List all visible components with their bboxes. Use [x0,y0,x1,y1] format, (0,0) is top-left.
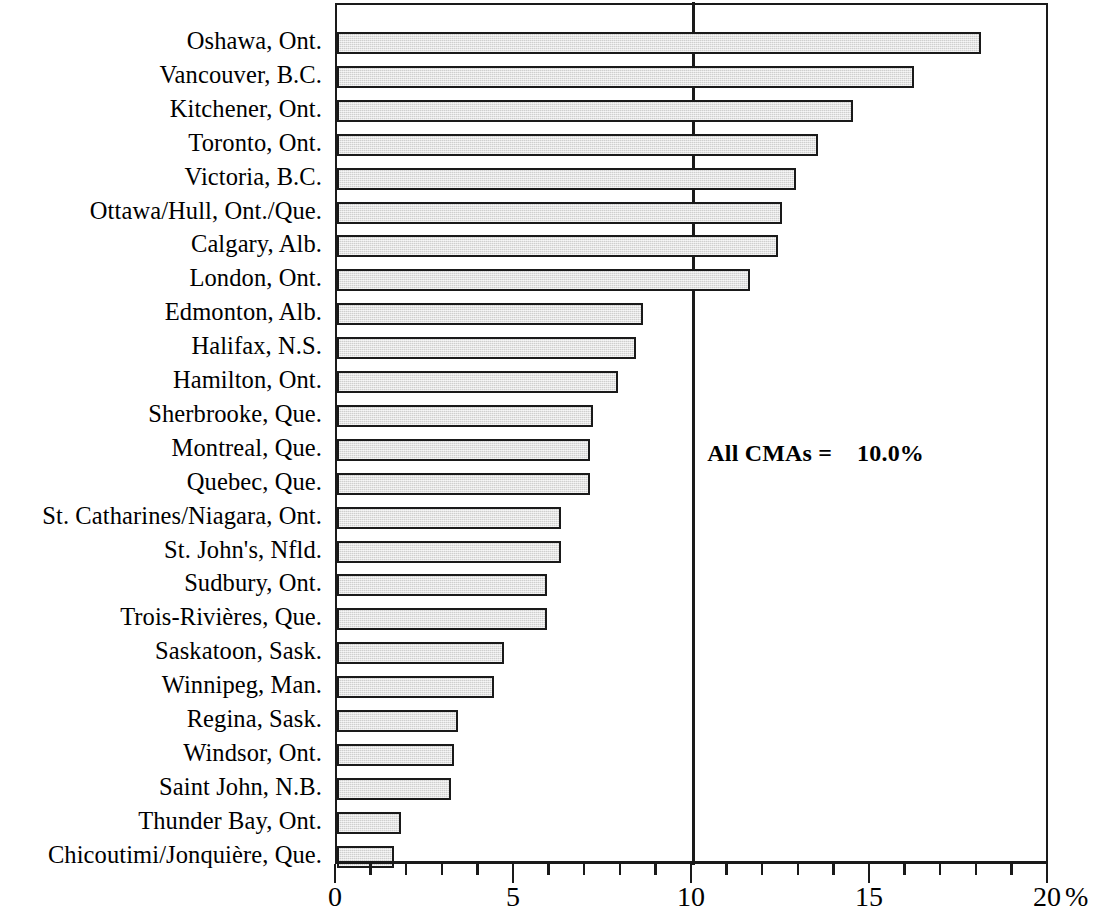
category-label: Sherbrooke, Que. [148,402,322,427]
axis-tick-minor [939,864,942,875]
axis-tick-minor [975,864,978,875]
axis-tick-minor [369,864,372,875]
axis-tick-label: 10 [677,883,705,911]
category-label: Trois-Rivières, Que. [120,605,322,630]
category-label: Sudbury, Ont. [184,571,322,596]
category-label: Victoria, B.C. [185,165,322,190]
category-label: Chicoutimi/Jonquière, Que. [48,843,322,868]
bar [337,202,782,224]
bar [337,235,778,257]
bar [337,574,547,596]
bar [337,710,458,732]
bar [337,100,853,122]
bar [337,439,590,461]
plot-area: All CMAs = 10.0% [335,3,1048,863]
bar [337,405,593,427]
axis-tick-minor [1010,864,1013,875]
category-label: Toronto, Ont. [188,131,322,156]
bar [337,507,561,529]
category-label: Windsor, Ont. [183,741,322,766]
category-label: Oshawa, Ont. [187,29,322,54]
axis-tick-minor [547,864,550,875]
bar [337,371,618,393]
category-label: St. Catharines/Niagara, Ont. [42,504,322,529]
category-label: Winnipeg, Man. [162,673,322,698]
axis-tick-minor [476,864,479,875]
axis-tick-minor [797,864,800,875]
axis-tick-minor [725,864,728,875]
bar [337,744,454,766]
axis-tick-minor [619,864,622,875]
bar [337,337,636,359]
category-label: London, Ont. [189,266,322,291]
axis-tick-minor [654,864,657,875]
category-label: Hamilton, Ont. [173,368,322,393]
category-label: Montreal, Que. [172,436,322,461]
axis-tick-minor [583,864,586,875]
bar [337,778,451,800]
bar [337,473,590,495]
category-label: Saskatoon, Sask. [155,639,322,664]
axis-unit-label: % [1065,883,1088,911]
category-label: Quebec, Que. [187,470,322,495]
all-cmas-annotation: All CMAs = 10.0% [707,440,924,467]
axis-tick-minor [441,864,444,875]
bar [337,608,547,630]
axis-tick-minor [405,864,408,875]
category-label: Halifax, N.S. [191,334,322,359]
bar [337,642,504,664]
category-label: Vancouver, B.C. [160,63,322,88]
category-label: Kitchener, Ont. [170,97,322,122]
axis-tick-minor [832,864,835,875]
bar [337,32,981,54]
axis-tick-label: 0 [328,883,342,911]
bar [337,303,643,325]
category-axis-labels: Oshawa, Ont.Vancouver, B.C.Kitchener, On… [0,0,330,863]
bar [337,812,401,834]
category-label: Calgary, Alb. [191,232,322,257]
axis-tick-minor [903,864,906,875]
all-cmas-reference-line [692,2,695,865]
axis-tick-label: 20 [1033,883,1061,911]
bar [337,269,750,291]
bar [337,541,561,563]
category-label: Saint John, N.B. [159,775,322,800]
category-label: Thunder Bay, Ont. [138,809,322,834]
bar [337,66,914,88]
category-label: Regina, Sask. [187,707,322,732]
bar-chart: Oshawa, Ont.Vancouver, B.C.Kitchener, On… [0,0,1098,916]
bar [337,134,818,156]
axis-tick-minor [761,864,764,875]
category-label: Ottawa/Hull, Ont./Que. [90,199,322,224]
axis-tick-label: 15 [855,883,883,911]
category-label: Edmonton, Alb. [165,300,322,325]
bar [337,676,494,698]
value-axis: % 05101520 [335,861,1048,916]
axis-tick-label: 5 [506,883,520,911]
bar [337,168,796,190]
category-label: St. John's, Nfld. [164,538,322,563]
